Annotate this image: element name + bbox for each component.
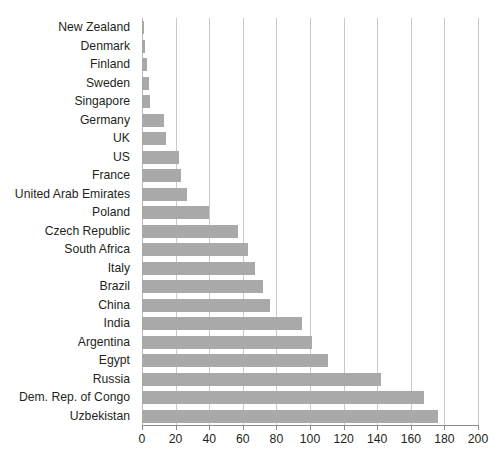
bar: [142, 280, 263, 293]
bar: [142, 58, 147, 71]
bar: [142, 373, 381, 386]
bar: [142, 206, 209, 219]
category-label: Singapore: [74, 92, 130, 111]
bar: [142, 188, 187, 201]
category-label: China: [98, 296, 130, 315]
bar: [142, 243, 248, 256]
bar-row: [142, 18, 478, 37]
tick-label: 200: [458, 432, 498, 446]
bar: [142, 410, 438, 423]
category-label: Denmark: [81, 37, 130, 56]
bar-row: [142, 55, 478, 74]
category-label: US: [113, 148, 130, 167]
category-label: Uzbekistan: [70, 407, 130, 426]
category-label: India: [104, 314, 130, 333]
bar-row: [142, 388, 478, 407]
tick-mark-140: [377, 425, 378, 430]
bar-row: [142, 277, 478, 296]
bar-row: [142, 240, 478, 259]
bar: [142, 391, 424, 404]
tick-mark-200: [478, 425, 479, 430]
category-label: Poland: [92, 203, 130, 222]
bar-row: [142, 351, 478, 370]
bar: [142, 354, 328, 367]
category-label: Czech Republic: [45, 222, 130, 241]
bar-row: [142, 129, 478, 148]
bar-row: [142, 259, 478, 278]
tick-mark-180: [444, 425, 445, 430]
category-label: United Arab Emirates: [15, 185, 130, 204]
plot-area: [142, 18, 478, 425]
gridline-200: [478, 18, 479, 425]
bar-chart: New ZealandDenmarkFinlandSwedenSingapore…: [0, 0, 503, 467]
category-axis-labels: New ZealandDenmarkFinlandSwedenSingapore…: [0, 18, 136, 425]
bar-row: [142, 185, 478, 204]
bar: [142, 169, 181, 182]
bar-row: [142, 222, 478, 241]
bar: [142, 95, 150, 108]
bar: [142, 225, 238, 238]
tick-mark-160: [411, 425, 412, 430]
bar-row: [142, 203, 478, 222]
bar-row: [142, 333, 478, 352]
bar: [142, 21, 144, 34]
bar-row: [142, 92, 478, 111]
category-label: Russia: [93, 370, 130, 389]
category-label: Dem. Rep. of Congo: [19, 388, 130, 407]
bar-row: [142, 74, 478, 93]
tick-mark-120: [344, 425, 345, 430]
bar-row: [142, 166, 478, 185]
bar: [142, 299, 270, 312]
tick-mark-20: [176, 425, 177, 430]
bar-row: [142, 296, 478, 315]
bar-row: [142, 111, 478, 130]
category-label: South Africa: [64, 240, 130, 259]
bar: [142, 151, 179, 164]
bar-row: [142, 407, 478, 426]
bar: [142, 77, 149, 90]
tick-mark-0: [142, 425, 143, 430]
category-label: Egypt: [99, 351, 130, 370]
category-label: Sweden: [86, 74, 130, 93]
category-label: UK: [113, 129, 130, 148]
bar: [142, 114, 164, 127]
category-label: New Zealand: [58, 18, 130, 37]
tick-mark-60: [243, 425, 244, 430]
bar-row: [142, 37, 478, 56]
bar: [142, 262, 255, 275]
category-label: Finland: [90, 55, 130, 74]
tick-mark-40: [209, 425, 210, 430]
category-label: Brazil: [100, 277, 130, 296]
bar-row: [142, 314, 478, 333]
tick-mark-80: [276, 425, 277, 430]
tick-mark-100: [310, 425, 311, 430]
bar-row: [142, 148, 478, 167]
bar: [142, 336, 312, 349]
bar-row: [142, 370, 478, 389]
bar: [142, 40, 145, 53]
category-label: Italy: [108, 259, 130, 278]
bar: [142, 317, 302, 330]
category-label: Germany: [80, 111, 130, 130]
category-label: Argentina: [78, 333, 130, 352]
bar: [142, 132, 166, 145]
category-label: France: [92, 166, 130, 185]
